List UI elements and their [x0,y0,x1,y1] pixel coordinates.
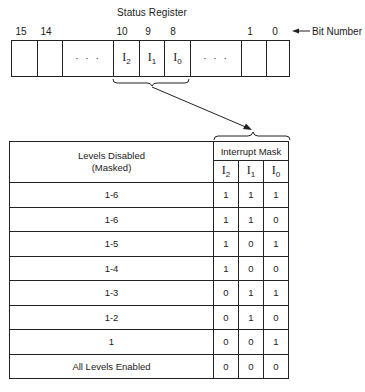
mask-bit-cell-i0: 1 [264,232,289,257]
mask-bit-cell-i0: 0 [264,305,289,330]
mask-bit-cell-i1: 0 [239,256,264,281]
levels-cell: 1 [10,330,214,355]
mask-bit-cell-i1: 1 [239,207,264,232]
field-subscript: 0 [276,171,280,180]
table-row: All Levels Enabled000 [10,354,289,379]
mask-bit-cell-i2: 1 [214,183,239,208]
table-row: 1-6110 [10,207,289,232]
field-subscript: 2 [226,171,230,180]
mapping-arrow-icon [152,87,252,130]
table-row: 1-6111 [10,183,289,208]
mask-bit-cell-i0: 1 [264,330,289,355]
bit-number-arrow-icon [292,29,310,34]
mask-bit-cell-i0: 1 [264,183,289,208]
mask-bit-cell-i1: 1 [239,183,264,208]
interrupt-mask-table: Levels Disabled (Masked) Interrupt Mask … [9,141,289,379]
mask-bit-header: I2 [214,161,239,183]
mask-bit-cell-i2: 0 [214,281,239,306]
mask-bit-cell-i1: 1 [239,305,264,330]
table-row: 1-2010 [10,305,289,330]
mask-bit-cell-i1: 0 [239,354,264,379]
mask-bit-cell-i1: 0 [239,232,264,257]
table-row: 1-4100 [10,256,289,281]
levels-disabled-header: Levels Disabled (Masked) [10,142,214,183]
mask-bit-cell-i2: 1 [214,232,239,257]
levels-cell: 1-4 [10,256,214,281]
masked-label: (Masked) [10,162,213,174]
levels-cell: 1-2 [10,305,214,330]
mask-bit-cell-i0: 0 [264,256,289,281]
table-row: 1-3011 [10,281,289,306]
mask-bit-cell-i0: 0 [264,354,289,379]
field-subscript: 1 [251,171,255,180]
mask-bit-header: I1 [239,161,264,183]
levels-cell: 1-5 [10,232,214,257]
mask-bit-cell-i2: 0 [214,305,239,330]
mask-bit-cell-i2: 0 [214,354,239,379]
mask-bit-cell-i2: 0 [214,330,239,355]
mask-bit-cell-i0: 1 [264,281,289,306]
levels-cell: 1-3 [10,281,214,306]
mask-bit-cell-i1: 0 [239,330,264,355]
mask-bit-cell-i0: 0 [264,207,289,232]
mask-bit-cell-i2: 1 [214,207,239,232]
levels-cell: 1-6 [10,207,214,232]
interrupt-mask-header: Interrupt Mask [214,142,289,161]
mask-bit-cell-i2: 1 [214,256,239,281]
register-brace-icon [113,79,189,86]
mask-bit-cell-i1: 1 [239,281,264,306]
table-row: 1-5101 [10,232,289,257]
levels-cell: 1-6 [10,183,214,208]
levels-cell: All Levels Enabled [10,354,214,379]
mask-brace-icon [214,132,290,140]
table-row: 1001 [10,330,289,355]
mask-bit-header: I0 [264,161,289,183]
levels-disabled-label: Levels Disabled [10,150,213,162]
